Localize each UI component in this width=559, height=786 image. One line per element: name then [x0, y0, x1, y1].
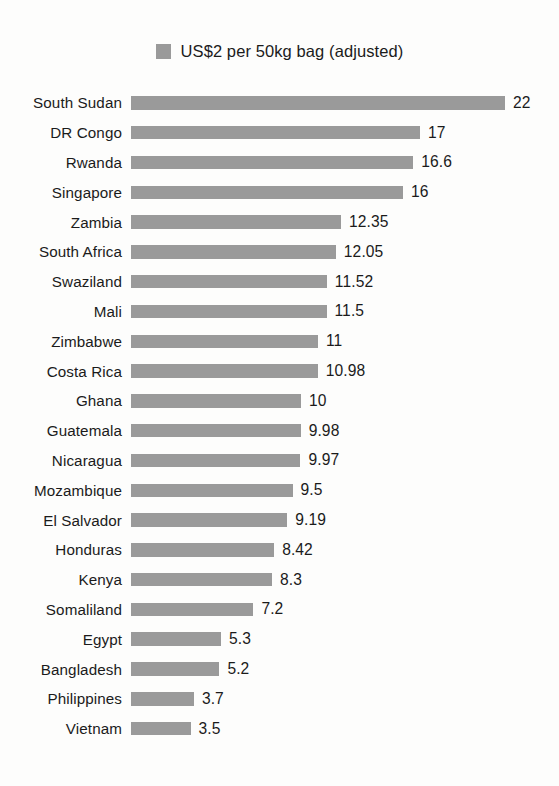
bar-row: Somaliland7.2	[0, 595, 559, 625]
bar-container: 3.5	[131, 720, 559, 738]
category-label: Nicaragua	[0, 452, 122, 469]
bar-row: Singapore16	[0, 177, 559, 207]
chart-legend: US$2 per 50kg bag (adjusted)	[0, 42, 559, 61]
bar-row: DR Congo17	[0, 118, 559, 148]
bar-row: Guatemala9.98	[0, 416, 559, 446]
bar	[131, 394, 301, 408]
bar-row: Mozambique9.5	[0, 475, 559, 505]
bar	[131, 573, 272, 587]
bar-row: Costa Rica10.98	[0, 356, 559, 386]
bar-container: 10	[131, 392, 559, 410]
bar-row: Zimbabwe11	[0, 326, 559, 356]
legend-swatch-icon	[156, 44, 171, 59]
bar-row: Mali11.5	[0, 297, 559, 327]
legend-label: US$2 per 50kg bag (adjusted)	[181, 42, 404, 61]
bar-container: 11.5	[131, 302, 559, 320]
bar-container: 11.52	[131, 273, 559, 291]
bar-container: 22	[131, 94, 559, 112]
bar	[131, 484, 293, 498]
bar	[131, 632, 221, 646]
category-label: Bangladesh	[0, 661, 122, 678]
category-label: Singapore	[0, 184, 122, 201]
category-label: Vietnam	[0, 720, 122, 737]
bar-container: 9.98	[131, 422, 559, 440]
bar-container: 8.42	[131, 541, 559, 559]
bar-value-label: 7.2	[261, 600, 283, 618]
bar-row: Ghana10	[0, 386, 559, 416]
bar-container: 16	[131, 183, 559, 201]
bar-value-label: 10	[309, 392, 327, 410]
bar-value-label: 9.5	[301, 481, 323, 499]
bar	[131, 364, 318, 378]
bar-container: 12.35	[131, 213, 559, 231]
bar	[131, 424, 301, 438]
category-label: South Africa	[0, 243, 122, 260]
bar	[131, 305, 327, 319]
category-label: Swaziland	[0, 273, 122, 290]
bar-row: Vietnam3.5	[0, 714, 559, 744]
bar-row: Kenya8.3	[0, 565, 559, 595]
bar-row: Honduras8.42	[0, 535, 559, 565]
bar	[131, 513, 287, 527]
bar-row: South Sudan22	[0, 88, 559, 118]
bar-row: El Salvador9.19	[0, 505, 559, 535]
bar-value-label: 22	[513, 94, 531, 112]
bar-value-label: 5.2	[227, 660, 249, 678]
bar-container: 3.7	[131, 690, 559, 708]
bar-container: 9.5	[131, 481, 559, 499]
bar-value-label: 11.52	[335, 273, 373, 291]
category-label: South Sudan	[0, 94, 122, 111]
bar-container: 8.3	[131, 571, 559, 589]
category-label: Zambia	[0, 214, 122, 231]
plot-area: South Sudan22DR Congo17Rwanda16.6Singapo…	[0, 88, 559, 744]
bar-container: 10.98	[131, 362, 559, 380]
bar	[131, 662, 219, 676]
bar-container: 16.6	[131, 153, 559, 171]
bar-value-label: 5.3	[229, 630, 251, 648]
bar-value-label: 8.3	[280, 571, 302, 589]
bar-row: Nicaragua9.97	[0, 446, 559, 476]
bar-value-label: 16	[411, 183, 429, 201]
bar	[131, 454, 300, 468]
bar	[131, 96, 505, 110]
bar-container: 5.2	[131, 660, 559, 678]
bar-row: Swaziland11.52	[0, 267, 559, 297]
bar-container: 7.2	[131, 600, 559, 618]
bar	[131, 156, 413, 170]
bar-value-label: 11.5	[335, 302, 365, 320]
category-label: Mozambique	[0, 482, 122, 499]
bar-row: Rwanda16.6	[0, 148, 559, 178]
bar-row: Egypt5.3	[0, 624, 559, 654]
bar	[131, 692, 194, 706]
bar	[131, 603, 253, 617]
category-label: Mali	[0, 303, 122, 320]
bar	[131, 215, 341, 229]
bar-value-label: 3.5	[199, 720, 221, 738]
category-label: El Salvador	[0, 512, 122, 529]
category-label: Honduras	[0, 541, 122, 558]
bar-container: 5.3	[131, 630, 559, 648]
category-label: Guatemala	[0, 422, 122, 439]
category-label: Costa Rica	[0, 363, 122, 380]
bar-container: 12.05	[131, 243, 559, 261]
bar	[131, 335, 318, 349]
bar-row: South Africa12.05	[0, 237, 559, 267]
bar-value-label: 11	[326, 332, 342, 350]
bar	[131, 543, 274, 557]
bar-value-label: 3.7	[202, 690, 224, 708]
bar-value-label: 9.98	[309, 422, 340, 440]
bar-chart: US$2 per 50kg bag (adjusted) South Sudan…	[0, 0, 559, 786]
bar-row: Bangladesh5.2	[0, 654, 559, 684]
category-label: Egypt	[0, 631, 122, 648]
bar-container: 9.97	[131, 451, 559, 469]
bar	[131, 186, 403, 200]
bar-value-label: 9.19	[295, 511, 326, 529]
bar-value-label: 12.05	[344, 243, 384, 261]
bar	[131, 245, 336, 259]
bar-container: 17	[131, 124, 559, 142]
bar-container: 11	[131, 332, 559, 350]
bar-value-label: 9.97	[308, 451, 339, 469]
bar-value-label: 16.6	[421, 153, 452, 171]
category-label: Ghana	[0, 392, 122, 409]
bar-row: Zambia12.35	[0, 207, 559, 237]
